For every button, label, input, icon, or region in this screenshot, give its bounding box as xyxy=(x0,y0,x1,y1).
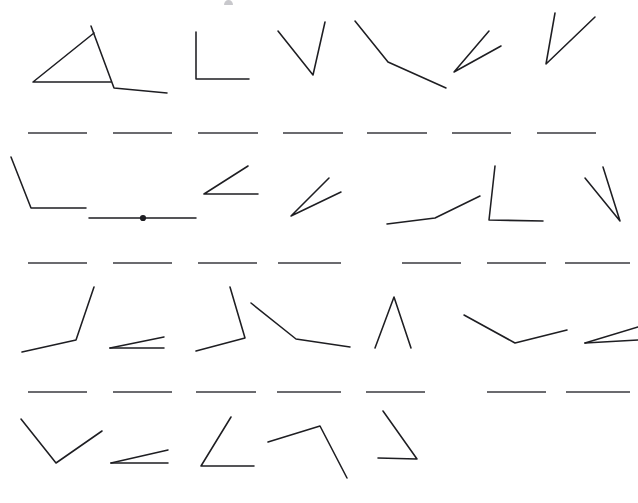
angle-figure-row2-col2-straight-vertex-dot xyxy=(140,215,146,221)
worksheet-page xyxy=(0,0,638,503)
angle-figures-canvas xyxy=(0,0,638,503)
page-background xyxy=(0,0,638,503)
